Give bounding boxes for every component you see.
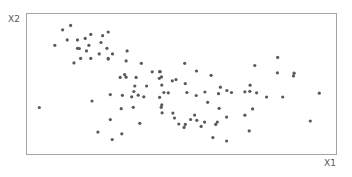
data-point	[251, 107, 254, 110]
data-point	[85, 49, 88, 52]
data-point	[66, 38, 69, 41]
data-point	[38, 106, 41, 109]
data-point	[309, 119, 312, 122]
data-point	[84, 37, 87, 40]
data-point	[126, 49, 129, 52]
data-point	[76, 38, 79, 41]
data-point	[158, 96, 161, 99]
data-point	[200, 125, 203, 128]
data-point	[243, 114, 246, 117]
data-point	[218, 107, 221, 110]
data-point	[243, 90, 246, 93]
data-point	[121, 94, 124, 97]
data-point	[195, 119, 198, 122]
data-point	[173, 116, 176, 119]
data-point	[109, 118, 112, 121]
data-point	[151, 70, 154, 73]
data-point	[189, 118, 192, 121]
data-point	[225, 89, 228, 92]
data-point	[142, 95, 145, 98]
data-point	[53, 44, 56, 47]
data-point	[210, 74, 213, 77]
data-point	[185, 91, 188, 94]
data-point	[265, 95, 268, 98]
data-point	[214, 123, 217, 126]
data-point	[248, 129, 251, 132]
data-point	[145, 84, 148, 87]
data-point	[253, 64, 256, 67]
data-point	[276, 71, 279, 74]
data-point	[281, 95, 284, 98]
data-point	[219, 86, 222, 89]
data-point	[105, 47, 108, 50]
data-point	[111, 138, 114, 141]
data-point	[184, 82, 187, 85]
data-point	[159, 70, 162, 73]
data-point	[292, 74, 295, 77]
data-point	[107, 30, 110, 33]
data-point	[158, 77, 161, 80]
data-point	[167, 91, 170, 94]
data-point	[193, 114, 196, 117]
data-point	[99, 41, 102, 44]
data-point	[225, 139, 228, 142]
data-point	[138, 122, 141, 125]
data-point	[203, 121, 206, 124]
data-point	[119, 76, 122, 79]
data-point	[98, 52, 101, 55]
data-point	[171, 112, 174, 115]
data-point	[225, 116, 228, 119]
data-point	[72, 61, 75, 64]
data-point	[130, 95, 133, 98]
data-point	[69, 24, 72, 27]
data-point	[132, 90, 135, 93]
data-point	[174, 78, 177, 81]
data-point	[61, 28, 64, 31]
data-point	[160, 84, 163, 87]
data-point	[132, 106, 135, 109]
data-point	[140, 62, 143, 65]
data-point	[203, 90, 206, 93]
data-point	[230, 91, 233, 94]
scatter-points	[0, 0, 352, 177]
data-point	[248, 90, 251, 93]
data-point	[135, 76, 138, 79]
data-point	[90, 99, 93, 102]
data-point	[96, 131, 99, 134]
data-point	[133, 84, 136, 87]
data-point	[120, 107, 123, 110]
data-point	[87, 44, 90, 47]
data-point	[137, 94, 140, 97]
data-point	[125, 59, 128, 62]
data-point	[162, 91, 165, 94]
data-point	[78, 47, 81, 50]
data-point	[89, 57, 92, 60]
data-point	[276, 56, 279, 59]
data-point	[89, 33, 92, 36]
data-point	[171, 79, 174, 82]
data-point	[160, 103, 163, 106]
data-point	[120, 132, 123, 135]
data-point	[318, 92, 321, 95]
data-point	[249, 84, 252, 87]
data-point	[79, 57, 82, 60]
data-point	[161, 111, 164, 114]
data-point	[125, 76, 128, 79]
data-point	[183, 62, 186, 65]
data-point	[255, 91, 258, 94]
data-point	[101, 34, 104, 37]
data-point	[177, 122, 180, 125]
data-point	[195, 69, 198, 72]
data-point	[111, 52, 114, 55]
data-point	[184, 123, 187, 126]
data-point	[109, 93, 112, 96]
data-point	[195, 94, 198, 97]
data-point	[217, 92, 220, 95]
data-point	[211, 136, 214, 139]
data-point	[206, 101, 209, 104]
data-point	[107, 57, 110, 60]
data-point	[293, 72, 296, 75]
data-point	[183, 126, 186, 129]
